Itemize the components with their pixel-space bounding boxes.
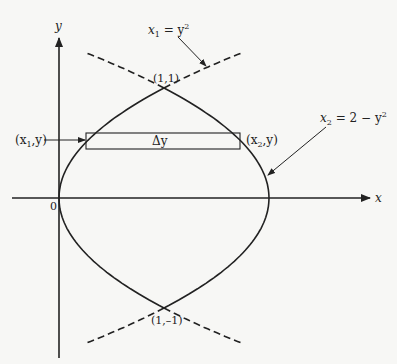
x1-equation-arrow <box>178 37 206 66</box>
right-point-label: (x2,y) <box>246 133 278 149</box>
x-axis-label: x <box>375 191 382 205</box>
delta-y-label: Δy <box>152 134 168 148</box>
y-axis-label: y <box>54 19 62 33</box>
region-diagram: y x 0 (1,1) (1,–1) Δy (x1,y) (x2,y) x1 =… <box>0 0 397 364</box>
x1-equation-label: x1 = y2 <box>148 22 189 39</box>
origin-label: 0 <box>50 200 57 213</box>
x2-equation-label: x2 = 2 − y2 <box>320 110 387 127</box>
point-top-label: (1,1) <box>153 72 179 85</box>
left-point-label: (x1,y) <box>15 133 47 149</box>
point-bottom-label: (1,–1) <box>151 314 183 327</box>
